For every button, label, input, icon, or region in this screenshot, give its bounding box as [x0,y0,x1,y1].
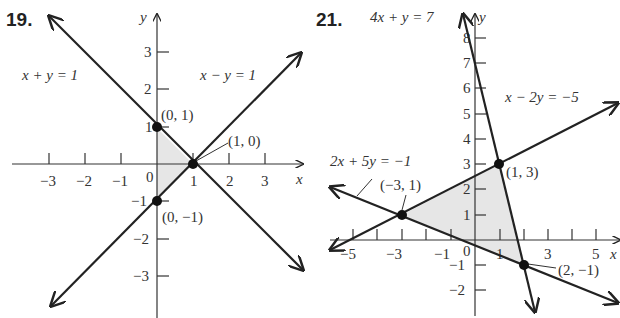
y-tick: 4 [463,131,471,147]
graph-19: 19. −3 −2 −1 0 1 2 3 x 3 2 1 −1 −2 −3 y [6,9,303,318]
y-tick: −3 [133,268,149,284]
y-tick: 1 [463,207,471,223]
y-tick: 3 [144,44,152,60]
point [188,159,198,169]
y-tick: 6 [463,80,471,96]
line-label: x − 2y = −5 [504,89,579,105]
point [152,196,162,206]
point-label: (1, 3) [506,164,539,181]
y-tick: −1 [131,193,147,209]
x-tick: 3 [544,246,552,262]
y-tick: 7 [463,55,471,71]
line-x-plus-y-1 [49,16,303,270]
x-tick: 3 [261,173,269,189]
x-tick: −3 [40,173,56,189]
point-label: (−3, 1) [380,177,421,194]
point-label: (0, 1) [161,107,194,124]
y-tick: 2 [144,81,152,97]
y-axis-label: y [138,9,147,25]
point-label: (1, 0) [228,133,261,150]
line-label: 4x + y = 7 [370,9,435,25]
x-tick: −1 [434,246,450,262]
point [519,260,529,270]
line-label: x − y = 1 [199,67,256,83]
y-tick: −2 [449,282,465,298]
problem-number: 19. [6,9,32,30]
line-label: x + y = 1 [21,67,78,83]
leader-line [402,195,406,210]
point-label: (2, −1) [558,262,599,279]
point [152,122,162,132]
graphs: 19. −3 −2 −1 0 1 2 3 x 3 2 1 −1 −2 −3 y [0,0,620,318]
y-axis-label: y [477,9,486,25]
point [397,210,407,220]
x-axis-label: x [295,171,303,187]
line-label: 2x + 5y = −1 [330,153,411,169]
x-tick: 0 [146,169,154,185]
problem-number: 21. [316,9,342,30]
x-tick: 5 [592,246,600,262]
x-tick: −5 [340,246,356,262]
graph-21: 21. −5 −3 −1 0 1 3 5 x 8 7 6 5 4 3 2 1 −… [316,9,620,316]
x-tick: 1 [190,173,198,189]
y-tick: 5 [463,106,471,122]
x-tick: −2 [76,173,92,189]
x-tick: 2 [226,173,234,189]
y-tick: 3 [463,156,471,172]
y-tick: −1 [449,257,465,273]
point-label: (0, −1) [162,209,203,226]
leader-line [196,143,228,161]
y-tick: 2 [463,181,471,197]
x-tick: −1 [112,173,128,189]
y-tick: 1 [145,119,153,135]
leader-line [357,179,372,196]
x-tick: −3 [386,246,402,262]
point [494,159,504,169]
y-tick: −2 [133,231,149,247]
x-axis-label: x [609,246,617,262]
